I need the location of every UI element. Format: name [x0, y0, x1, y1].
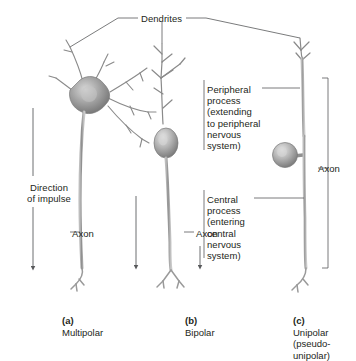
caption-unipolar: (c) Unipolar (pseudo- unipolar): [293, 304, 331, 361]
caption-name-c: Unipolar (pseudo- unipolar): [293, 327, 331, 361]
bipolar-axon: [166, 158, 171, 270]
bipolar-axon-terminals: [157, 270, 184, 288]
label-axon-unipolar: Axon: [318, 163, 340, 174]
label-dendrites: Dendrites: [141, 13, 182, 24]
neuron-bipolar: [152, 44, 185, 288]
caption-letter-c: (c): [293, 315, 305, 326]
label-central-process: Central process (entering central nervou…: [207, 194, 245, 261]
caption-letter-a: (a): [62, 315, 74, 326]
unipolar-axon-terminals: [292, 268, 308, 292]
multipolar-nucleus: [81, 86, 97, 102]
caption-bipolar: (b) Bipolar: [185, 304, 215, 338]
multipolar-axon-terminals: [71, 268, 84, 291]
neuron-unipolar: [273, 38, 311, 292]
dendrites-leader-lines: [70, 18, 300, 47]
caption-name-b: Bipolar: [185, 327, 215, 338]
label-peripheral-process: Peripheral process (extending to periphe…: [207, 84, 260, 151]
caption-letter-b: (b): [185, 315, 197, 326]
caption-multipolar: (a) Multipolar: [62, 304, 103, 338]
neuron-multipolar: [49, 40, 156, 291]
unipolar-peripheral-process: [302, 58, 304, 136]
label-direction-of-impulse: Direction of impulse: [10, 182, 88, 204]
label-axon-multipolar: Axon: [72, 228, 94, 239]
unipolar-nucleus: [277, 147, 287, 157]
caption-name-a: Multipolar: [62, 327, 103, 338]
bipolar-nucleus: [158, 135, 167, 146]
unipolar-central-process: [304, 136, 306, 268]
bipolar-dendrites: [152, 44, 185, 124]
